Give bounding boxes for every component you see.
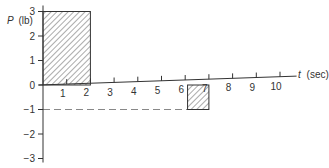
x-axis-label: t (sec)	[298, 69, 329, 80]
impulse-chart: 3210−1−2−312345678910 P (lb) t (sec)	[0, 0, 329, 168]
y-tick-label: −3	[24, 153, 36, 164]
x-tick-label: 2	[84, 87, 90, 98]
y-tick-label: −1	[24, 104, 36, 115]
pulse-1-bar	[43, 12, 90, 86]
x-tick-label: 4	[131, 86, 137, 97]
x-tick-label: 10	[270, 81, 282, 92]
plot-area: 3210−1−2−312345678910	[24, 6, 297, 165]
y-tick-label: 0	[29, 80, 35, 91]
x-tick-label: 1	[60, 88, 66, 99]
x-tick-label: 7	[202, 83, 208, 94]
x-tick-label: 9	[250, 82, 256, 93]
y-tick-label: 2	[29, 31, 35, 42]
x-tick-label: 8	[226, 82, 232, 93]
y-tick-label: −2	[24, 129, 36, 140]
x-tick-label: 6	[178, 84, 184, 95]
x-tick-label: 5	[155, 85, 161, 96]
x-tick-label: 3	[107, 87, 113, 98]
y-axis-label: P (lb)	[7, 15, 33, 26]
y-tick-label: 1	[29, 55, 35, 66]
